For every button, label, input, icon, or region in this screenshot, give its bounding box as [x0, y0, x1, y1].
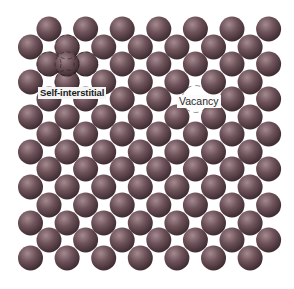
lattice-atom	[220, 52, 245, 77]
lattice-atom	[256, 122, 281, 147]
lattice-atom	[238, 246, 263, 271]
lattice-atom	[220, 193, 245, 218]
lattice-atom	[18, 175, 43, 200]
lattice-atom	[128, 246, 153, 271]
lattice-atom	[220, 122, 245, 147]
lattice-atom	[91, 246, 116, 271]
lattice-atom	[18, 105, 43, 130]
lattice-atom	[164, 246, 189, 271]
lattice-atom	[73, 193, 98, 218]
lattice-atom	[110, 52, 135, 77]
lattice-atom	[183, 17, 208, 42]
lattice-atom	[183, 157, 208, 182]
crystal-lattice-diagram	[0, 0, 294, 289]
lattice-atom	[55, 246, 80, 271]
lattice-atom	[146, 122, 171, 147]
lattice-atom	[18, 246, 43, 271]
lattice-atom	[110, 122, 135, 147]
lattice-atom	[37, 193, 62, 218]
lattice-atom	[55, 175, 80, 200]
lattice-atom	[146, 228, 171, 253]
lattice-atom	[146, 157, 171, 182]
lattice-atom	[238, 175, 263, 200]
lattice-atom	[201, 175, 226, 200]
self-interstitial-label: Self-interstitial	[38, 87, 106, 99]
lattice-atom	[183, 193, 208, 218]
lattice-atom	[256, 193, 281, 218]
lattice-atom	[110, 228, 135, 253]
lattice-atom	[91, 175, 116, 200]
lattice-atom	[73, 157, 98, 182]
lattice-atom	[201, 246, 226, 271]
lattice-atom	[128, 175, 153, 200]
lattice-atom	[110, 193, 135, 218]
lattice-atom	[110, 157, 135, 182]
lattice-atom	[18, 211, 43, 236]
lattice-atom	[110, 87, 135, 112]
lattice-atom	[201, 70, 226, 95]
lattice-atom	[256, 228, 281, 253]
lattice-atom	[164, 175, 189, 200]
lattice-atom	[256, 52, 281, 77]
lattice-atom	[18, 35, 43, 60]
lattice-atom	[37, 228, 62, 253]
lattice-atom	[256, 87, 281, 112]
vacancy-label: Vacancy	[177, 95, 221, 108]
lattice-atom	[73, 122, 98, 147]
lattice-atom	[183, 52, 208, 77]
lattice-atom	[73, 228, 98, 253]
lattice-atom	[146, 17, 171, 42]
lattice-atom	[256, 17, 281, 42]
lattice-atom	[146, 52, 171, 77]
lattice-atom	[37, 122, 62, 147]
lattice-atom	[220, 157, 245, 182]
lattice-atom	[37, 17, 62, 42]
lattice-atom	[256, 157, 281, 182]
lattice-atom	[146, 87, 171, 112]
lattice-atom	[220, 87, 245, 112]
lattice-atom	[73, 17, 98, 42]
lattice-atom	[220, 17, 245, 42]
lattice-atom	[110, 17, 135, 42]
lattice-atom	[18, 140, 43, 165]
lattice-atom	[183, 122, 208, 147]
lattice-atom	[183, 228, 208, 253]
lattice-atom	[220, 228, 245, 253]
lattice-atom	[146, 193, 171, 218]
lattice-atom	[37, 157, 62, 182]
